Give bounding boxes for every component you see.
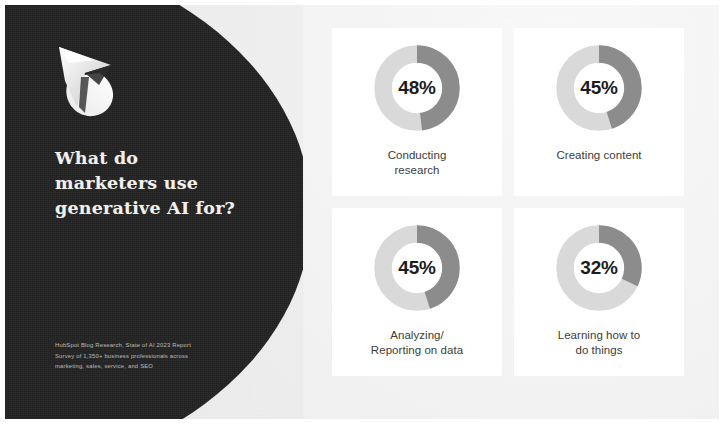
donut-card-learning-how-to-do-things: 32% Learning how to do things — [514, 208, 684, 376]
page-title: What do marketers use generative AI for? — [55, 146, 270, 221]
donut-chart-grid: 48% Conducting research 45% Creating con… — [332, 28, 684, 396]
donut-value-label: 48% — [371, 42, 463, 134]
donut-chart: 32% — [553, 222, 645, 314]
donut-chart: 45% — [371, 222, 463, 314]
donut-card-analyzing-reporting: 45% Analyzing/ Reporting on data — [332, 208, 502, 376]
donut-value-label: 45% — [553, 42, 645, 134]
donut-category-line-1: Creating content — [556, 148, 641, 163]
donut-category-label: Conducting research — [388, 148, 447, 179]
donut-chart: 48% — [371, 42, 463, 134]
donut-card-conducting-research: 48% Conducting research — [332, 28, 502, 196]
source-line-2: Survey of 1,350+ business professionals … — [55, 351, 265, 362]
title-panel: What do marketers use generative AI for?… — [5, 5, 303, 419]
page-title-line-1: What do — [55, 146, 270, 171]
donut-category-line-1: Conducting — [388, 148, 447, 163]
donut-category-line-1: Learning how to — [558, 328, 641, 343]
source-line-1: HubSpot Blog Research, State of AI 2023 … — [55, 340, 265, 351]
donut-category-line-2: do things — [558, 343, 641, 358]
donut-chart: 45% — [553, 42, 645, 134]
donut-category-label: Learning how to do things — [558, 328, 641, 359]
donut-category-line-1: Analyzing/ — [371, 328, 463, 343]
donut-value-label: 45% — [371, 222, 463, 314]
infographic-slide: What do marketers use generative AI for?… — [0, 0, 724, 424]
source-citation: HubSpot Blog Research, State of AI 2023 … — [55, 340, 265, 372]
donut-category-line-2: research — [388, 163, 447, 178]
paper-airplane-logo — [55, 33, 133, 121]
page-title-line-3: generative AI for? — [55, 196, 270, 221]
donut-category-label: Creating content — [556, 148, 641, 163]
page-title-line-2: marketers use — [55, 171, 270, 196]
donut-card-creating-content: 45% Creating content — [514, 28, 684, 196]
source-line-3: marketing, sales, service, and SEO — [55, 361, 265, 372]
donut-category-line-2: Reporting on data — [371, 343, 463, 358]
donut-value-label: 32% — [553, 222, 645, 314]
donut-category-label: Analyzing/ Reporting on data — [371, 328, 463, 359]
